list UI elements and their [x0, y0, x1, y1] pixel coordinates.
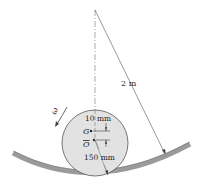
- radius-label: 150 mm: [84, 153, 115, 162]
- offset-label: 10 mm: [85, 114, 111, 123]
- point-o: [93, 139, 95, 141]
- omega-label: ω: [49, 106, 60, 116]
- diagram-canvas: 2 m 10 mm G O 150 mm ω: [0, 0, 210, 189]
- o-label: O: [83, 140, 90, 149]
- length-label: 2 m: [121, 79, 137, 88]
- point-g: [90, 130, 92, 132]
- g-label: G: [83, 127, 90, 136]
